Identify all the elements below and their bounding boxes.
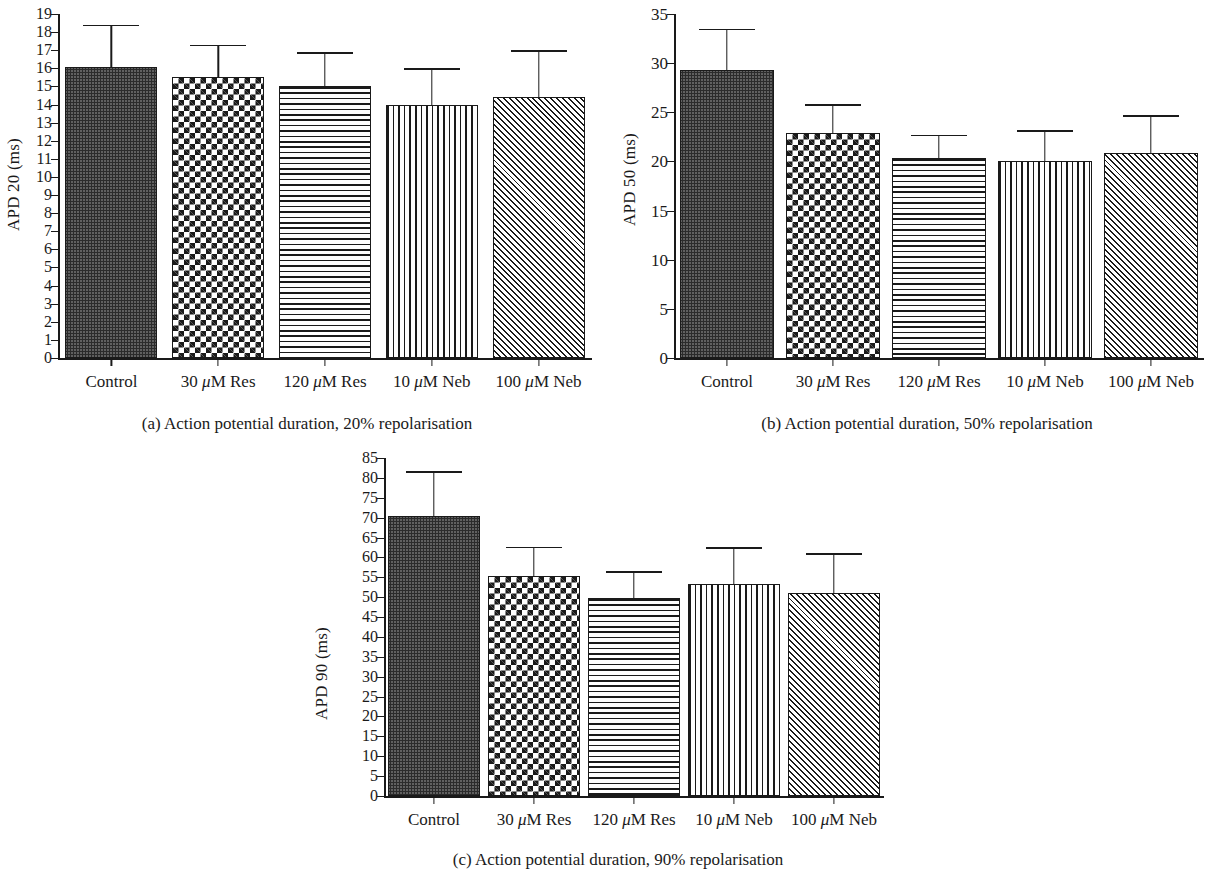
y-tick-label: 10 [362,748,378,764]
y-tick-mark [51,213,58,214]
error-bar-stem [733,547,734,584]
y-tick-mark [377,697,384,698]
y-tick-mark [667,260,674,261]
bar [680,70,774,358]
y-tick-mark [667,14,674,15]
y-tick-label: 30 [362,669,378,685]
error-bar-cap [506,547,562,549]
error-bar-stem [324,52,325,86]
y-tick-mark [377,458,384,459]
y-tick-mark [377,716,384,717]
chart-panel-c: APD 90 (ms)05101520253035404550556065707… [300,444,928,876]
x-axis-category-label: Control [85,372,137,392]
x-axis-category-label: 30 μM Res [796,372,871,392]
error-bar-cap [406,471,462,473]
error-bar [297,52,353,86]
panel-caption: (a) Action potential duration, 20% repol… [142,414,472,434]
y-axis-tick-labels: 05101520253035 [638,14,668,358]
x-tick-mark [733,797,734,804]
bar [998,161,1092,358]
y-tick-mark [51,322,58,323]
y-tick-mark [51,86,58,87]
y-tick-label: 40 [362,629,378,645]
y-tick-mark [51,231,58,232]
y-tick-mark [51,249,58,250]
x-axis-category-label: 120 μM Res [283,372,366,392]
bar [388,516,480,796]
error-bar-cap [190,45,246,47]
x-axis-category-label: 30 μM Res [181,372,256,392]
y-tick-mark [667,309,674,310]
y-tick-mark [51,14,58,15]
x-tick-mark [726,359,727,366]
error-bar [606,571,662,598]
y-tick-label: 65 [362,530,378,546]
y-tick-mark [51,177,58,178]
error-bar-cap [805,104,861,106]
y-axis-tick-labels: 0510152025303540455055606570758085 [344,458,378,796]
error-bar-cap [297,52,353,54]
y-tick-label: 16 [36,60,52,76]
panel-caption: (c) Action potential duration, 90% repol… [453,850,783,870]
y-axis-title: APD 90 (ms) [312,594,332,754]
error-bar [406,471,462,516]
chart-panel-b: APD 50 (ms)05101520253035Control30 μM Re… [614,0,1228,440]
x-tick-mark [1044,359,1045,366]
y-tick-label: 15 [651,202,668,219]
y-tick-mark [51,123,58,124]
y-tick-label: 20 [651,153,668,170]
y-tick-mark [377,617,384,618]
x-tick-mark [433,797,434,804]
bar [172,77,264,358]
y-tick-mark [377,518,384,519]
y-axis-tick-labels: 012345678910111213141516171819 [16,14,52,358]
bar [588,598,680,796]
y-tick-mark [667,112,674,113]
y-tick-mark [51,267,58,268]
y-tick-label: 75 [362,490,378,506]
bar [892,158,986,358]
y-axis-tick-marks [51,14,58,358]
error-bar-cap [806,553,862,555]
error-bar-cap [699,29,755,31]
bar [65,67,157,358]
y-tick-mark [667,358,674,359]
x-axis-category-label: 100 μM Neb [1108,372,1194,392]
bar [786,133,880,358]
error-bar [83,25,139,67]
error-bar-cap [606,571,662,573]
panel-caption: (b) Action potential duration, 50% repol… [761,414,1092,434]
bar [1104,153,1198,358]
y-tick-label: 35 [362,649,378,665]
x-tick-mark [633,797,634,804]
bar [788,593,880,796]
figure-root: APD 20 (ms)01234567891011121314151617181… [0,0,1228,876]
error-bar-cap [1123,115,1179,117]
y-tick-mark [51,50,58,51]
x-tick-mark [833,797,834,804]
bar [386,105,478,358]
y-tick-mark [51,195,58,196]
error-bar-cap [83,25,139,27]
bar [688,584,780,796]
y-tick-mark [377,557,384,558]
y-tick-mark [51,340,58,341]
x-axis-category-label: Control [408,810,460,830]
y-tick-label: 18 [36,24,52,40]
x-tick-mark [832,359,833,366]
y-tick-mark [377,756,384,757]
error-bar-cap [404,68,460,70]
y-tick-mark [51,32,58,33]
y-tick-label: 14 [36,97,52,113]
y-axis-line [384,458,386,796]
y-tick-label: 60 [362,549,378,565]
x-axis-category-label: 10 μM Neb [695,810,773,830]
y-tick-label: 25 [362,689,378,705]
error-bar [699,29,755,70]
y-tick-mark [377,776,384,777]
x-tick-mark [538,359,539,366]
error-bar [806,553,862,593]
y-tick-label: 17 [36,42,52,58]
error-bar [190,45,246,78]
y-tick-label: 45 [362,609,378,625]
